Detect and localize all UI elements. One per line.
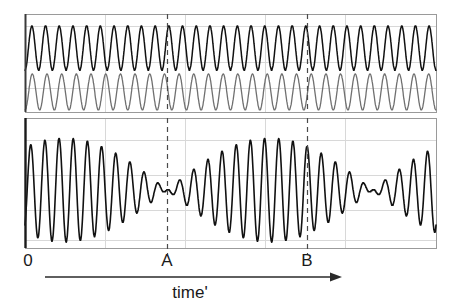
origin-tick-label: 0 [23, 251, 32, 270]
figure-root: 0 A B time' [0, 0, 453, 303]
wave-beats-figure: 0 A B time' [0, 0, 453, 303]
time-axis-label: time' [172, 283, 207, 302]
marker-label-a: A [161, 251, 173, 270]
marker-label-b: B [301, 251, 312, 270]
